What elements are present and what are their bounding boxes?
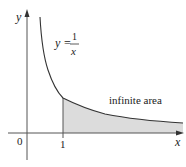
y-axis-arrowhead-icon [25,9,30,17]
origin-label: 0 [17,135,23,147]
equation-numerator: 1 [72,31,77,42]
y-axis-label: y [15,10,22,24]
x-tick-label-1: 1 [60,138,66,150]
infinite-area-label: infinite area [109,94,162,106]
x-axis-label: x [174,135,181,149]
hyperbola-curve [40,17,183,123]
equation-denominator: x [70,45,76,57]
improper-integral-diagram: y x 0 1 y = 1 x infinite area [0,0,186,167]
equation-lhs: y = [54,36,71,50]
